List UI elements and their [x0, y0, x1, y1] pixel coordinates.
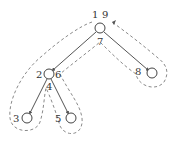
- label-leaf-a: 3: [13, 113, 19, 124]
- edge-root-right: [104, 32, 148, 70]
- node-right: [147, 68, 157, 78]
- node-leaf-a: [22, 113, 32, 123]
- label-leaf-b: 5: [55, 113, 61, 124]
- label-root-mid: 7: [97, 36, 103, 47]
- label-root-post: 9: [102, 9, 108, 20]
- node-root: [95, 23, 105, 33]
- label-left-post: 6: [55, 69, 61, 80]
- label-left-pre: 2: [36, 69, 42, 80]
- node-leaf-b: [66, 113, 76, 123]
- label-left-mid: 4: [46, 81, 52, 92]
- euler-tour-diagram: 1 9 7 2 6 4 8 3 5: [0, 0, 177, 143]
- label-right-leaf: 8: [135, 66, 141, 77]
- node-left: [44, 69, 54, 79]
- tour-arrowhead-icon: [112, 20, 116, 25]
- label-root-pre: 1: [92, 9, 98, 20]
